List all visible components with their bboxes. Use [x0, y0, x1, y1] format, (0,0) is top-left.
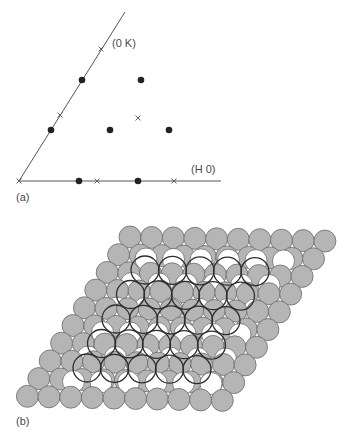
substrate-atom [103, 387, 125, 409]
substrate-atom [190, 389, 212, 411]
substrate-atom [125, 388, 147, 410]
lattice-point-crosses [17, 47, 177, 184]
substrate-atom [60, 386, 82, 408]
atom-layers [16, 226, 336, 411]
substrate-atom [146, 388, 168, 410]
substrate-atom [38, 386, 60, 408]
spot-dot-icon [76, 178, 83, 185]
spot-dot-icon [135, 178, 142, 185]
spot-dot-icon [79, 77, 86, 84]
cross-marker-icon [58, 113, 63, 118]
substrate-atom [211, 389, 233, 411]
diffraction-spots [48, 77, 173, 185]
panel-a-label: (a) [16, 191, 29, 203]
substrate-atom [81, 387, 103, 409]
cross-marker-icon [136, 116, 141, 121]
substrate-atom [168, 388, 190, 410]
spot-dot-icon [138, 77, 145, 84]
panel-b-label: (b) [16, 415, 29, 427]
figure: (H 0) (0 K) (a) (b) [0, 0, 353, 441]
panel-b-real-space-model: (b) [16, 226, 336, 427]
k-axis-line [19, 12, 125, 181]
h-axis-label: (H 0) [191, 163, 215, 175]
substrate-atom [16, 385, 38, 407]
k-axis-label: (0 K) [112, 37, 136, 49]
spot-dot-icon [107, 127, 114, 134]
spot-dot-icon [166, 127, 173, 134]
panel-a-reciprocal-lattice: (H 0) (0 K) (a) [16, 12, 221, 203]
spot-dot-icon [48, 127, 55, 134]
